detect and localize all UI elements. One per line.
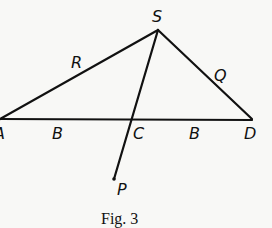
- label-R: R: [71, 53, 82, 72]
- figure-3-diagram: S A D C P R Q B B Fig. 3: [0, 0, 272, 228]
- label-Q: Q: [214, 66, 227, 85]
- label-S: S: [152, 7, 162, 26]
- diagram-canvas: S A D C P R Q B B Fig. 3: [0, 0, 272, 228]
- line-SP: [114, 30, 158, 179]
- label-A: A: [0, 124, 5, 143]
- label-B-right: B: [189, 124, 200, 143]
- label-D: D: [244, 124, 256, 143]
- label-C: C: [133, 124, 145, 143]
- line-AD: [0, 119, 252, 120]
- line-SD: [158, 30, 252, 119]
- figure-caption: Fig. 3: [101, 210, 138, 228]
- label-B-left: B: [52, 124, 63, 143]
- label-P: P: [117, 180, 127, 199]
- line-SA: [0, 30, 158, 119]
- point-P-dot: [112, 177, 116, 181]
